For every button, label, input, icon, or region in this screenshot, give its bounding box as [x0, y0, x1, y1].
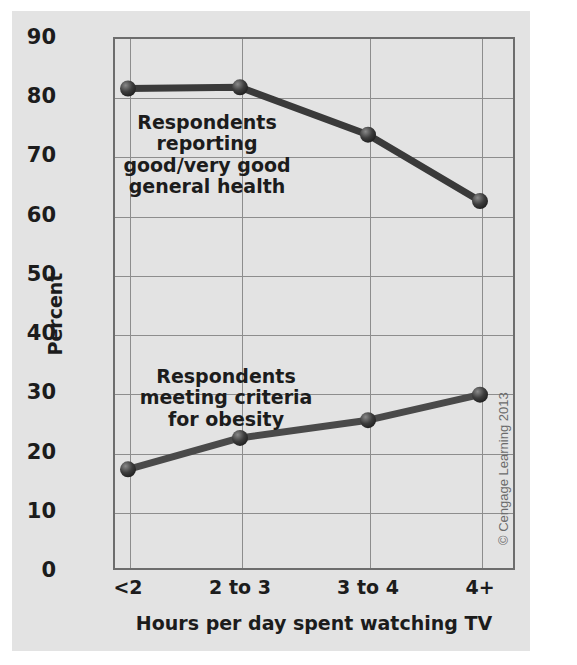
- x-axis-title: Hours per day spent watching TV: [113, 612, 515, 634]
- x-tick-lt2: <2: [113, 576, 142, 598]
- figure-container: 90 80 70 60 50 40 30 20 10 0 <2 2 to 3 3…: [0, 0, 577, 665]
- x-tick-3to4: 3 to 4: [337, 576, 399, 598]
- annotation-obesity-series: Respondents meeting criteria for obesity: [131, 366, 321, 430]
- y-axis-title: Percent: [44, 254, 66, 374]
- x-tick-2to3: 2 to 3: [209, 576, 271, 598]
- annotation-health-series: Respondents reporting good/very good gen…: [96, 112, 318, 197]
- x-tick-4plus: 4+: [465, 576, 494, 598]
- copyright-credit: © Cengage Learning 2013: [496, 365, 511, 545]
- y-axis-ticks: 90 80 70 60 50 40 30 20 10 0: [0, 0, 577, 665]
